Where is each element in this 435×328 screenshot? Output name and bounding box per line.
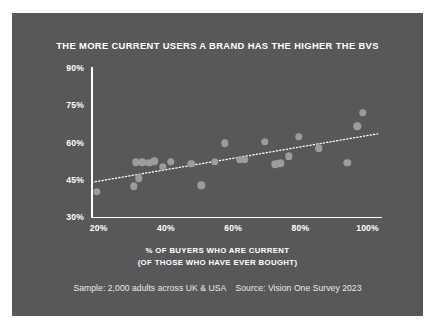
x-axis-tick-label: 80%: [291, 223, 309, 233]
x-axis-tick-label: 20%: [90, 223, 108, 233]
chart-title: THE MORE CURRENT USERS A BRAND HAS THE H…: [12, 40, 423, 52]
plot-area: 30%45%60%75%90%20%40%60%80%100%: [92, 68, 381, 217]
trendline: [92, 68, 381, 217]
x-axis-tick-label: 100%: [356, 223, 379, 233]
x-axis-title-line1: % OF BUYERS WHO ARE CURRENT: [146, 246, 290, 255]
footer-note: Sample: 2,000 adults across UK & USA Sou…: [12, 283, 423, 293]
chart-figure: THE MORE CURRENT USERS A BRAND HAS THE H…: [12, 13, 423, 316]
y-axis-tick-label: 30%: [66, 212, 84, 222]
y-axis-tick-label: 60%: [66, 138, 84, 148]
x-axis-title-line2: (OF THOSE WHO HAVE EVER BOUGHT): [138, 258, 298, 267]
x-axis-tick-label: 60%: [224, 223, 242, 233]
y-axis-tick-label: 90%: [66, 63, 84, 73]
x-axis-title: % OF BUYERS WHO ARE CURRENT (OF THOSE WH…: [12, 245, 423, 268]
x-axis-tick-label: 40%: [157, 223, 175, 233]
y-axis-tick-label: 75%: [66, 100, 84, 110]
y-axis-tick-label: 45%: [66, 175, 84, 185]
